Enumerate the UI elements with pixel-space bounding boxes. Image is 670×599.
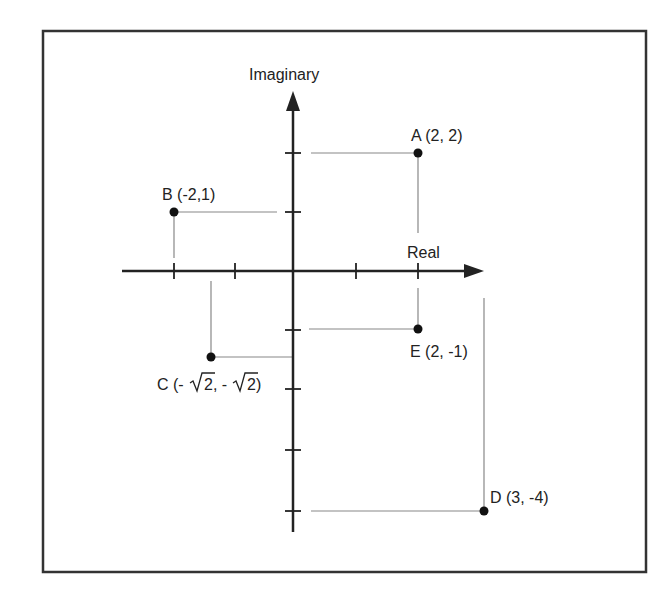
points [170,149,489,516]
point-d [480,507,489,516]
point-a [414,149,423,158]
point-e-label: E (2, -1) [410,343,468,360]
point-a-label: A (2, 2) [411,127,463,144]
imaginary-axis-label: Imaginary [249,66,319,83]
point-c-label-suffix: 2) [247,376,261,393]
projection-lines [174,153,484,511]
point-b [170,208,179,217]
point-c [207,353,216,362]
imaginary-axis-arrow-icon [286,91,300,111]
point-c-label-prefix: C (- [157,376,184,393]
real-axis-label: Real [407,244,440,261]
point-e [414,325,423,334]
point-c-label-mid: 2, - [204,376,227,393]
point-c-label: C (- 2, - 2) [157,373,261,393]
point-d-label: D (3, -4) [490,489,549,506]
point-b-label: B (-2,1) [162,186,215,203]
complex-plane-diagram: Imaginary Real A (2, 2) B (-2,1) E (2, -… [0,0,670,599]
diagram-frame [43,31,646,572]
real-axis-arrow-icon [464,264,484,278]
